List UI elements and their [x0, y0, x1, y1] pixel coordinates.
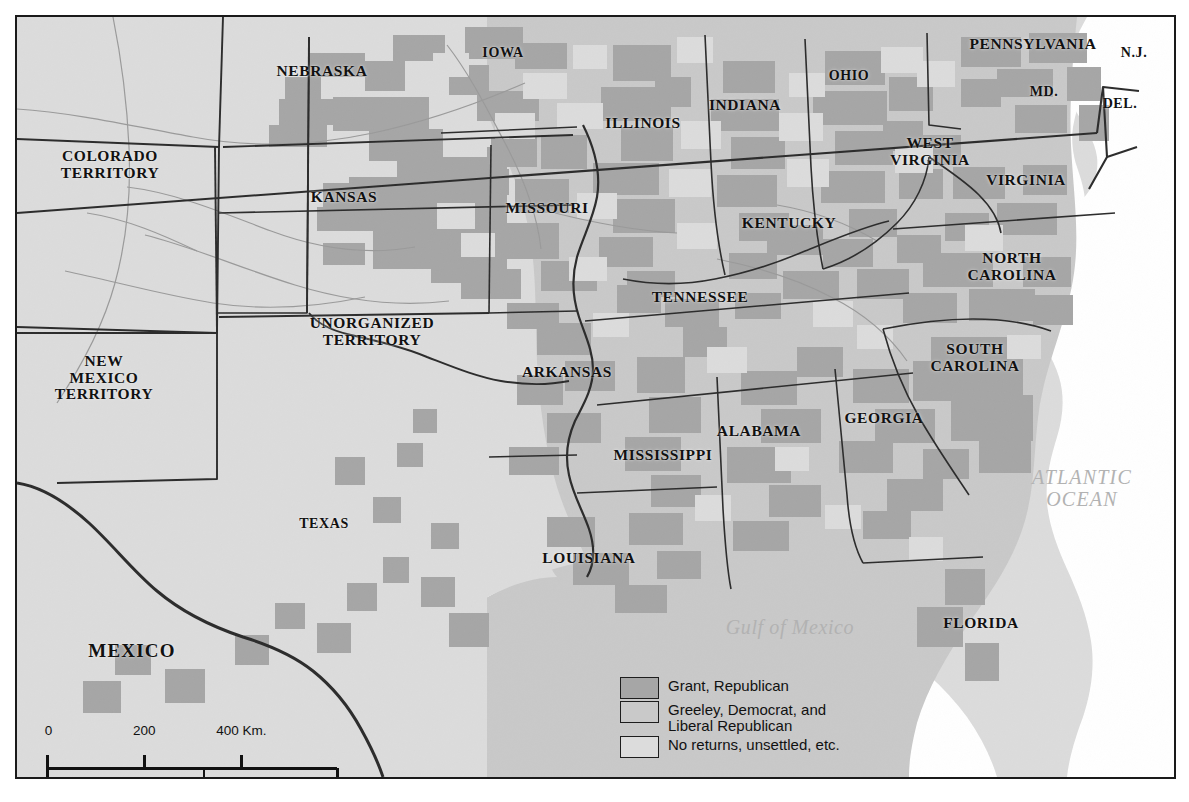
scale-km-tick-2: 400 Km. [216, 723, 266, 738]
map-canvas [17, 17, 1174, 777]
legend-item-grant-republican: Grant, Republican [620, 677, 840, 699]
scale-bar: 0200400 Km. 0200400 Mi. [47, 723, 337, 779]
scale-km-tick-0: 0 [45, 723, 53, 738]
scale-km-tick-1: 200 [133, 723, 156, 738]
scale-km-labels: 0200400 Km. [47, 723, 337, 739]
legend-swatch-no-returns [620, 736, 659, 758]
scale-mi-mark-2 [336, 768, 339, 779]
scale-km-mark-1 [143, 755, 146, 768]
map-frame: COLORADO TERRITORYNEBRASKAKANSASIOWAMISS… [15, 15, 1176, 779]
scale-mi-mark-0 [46, 768, 49, 779]
scale-km-mark-2 [240, 755, 243, 768]
legend-label-no-returns: No returns, unsettled, etc. [668, 736, 840, 753]
scale-line [47, 767, 337, 770]
scale-track [47, 753, 337, 779]
legend-swatch-grant-republican [620, 677, 659, 699]
map-screenshot: COLORADO TERRITORYNEBRASKAKANSASIOWAMISS… [0, 0, 1189, 802]
scale-mi-mark-1 [203, 768, 206, 779]
legend-swatch-greeley-democrat [620, 701, 659, 723]
legend-label-greeley-democrat: Greeley, Democrat, and Liberal Republica… [668, 701, 826, 734]
legend-label-grant-republican: Grant, Republican [668, 677, 789, 694]
legend-item-greeley-democrat: Greeley, Democrat, and Liberal Republica… [620, 701, 840, 734]
scale-km-mark-0 [46, 755, 49, 768]
map-legend: Grant, RepublicanGreeley, Democrat, and … [620, 677, 840, 760]
legend-item-no-returns: No returns, unsettled, etc. [620, 736, 840, 758]
